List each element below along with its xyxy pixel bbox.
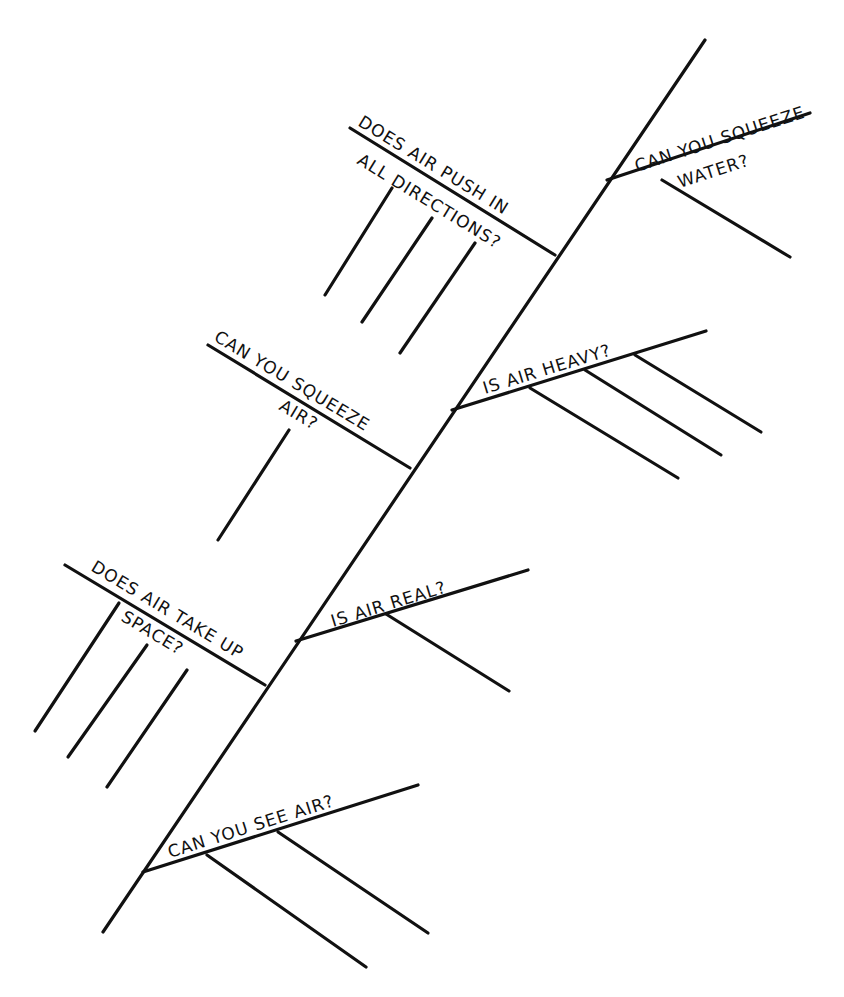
branch-see-air: CAN YOU SEE AIR? xyxy=(143,785,428,967)
sub-line xyxy=(218,430,289,540)
branch-line xyxy=(208,345,410,468)
sub-line xyxy=(207,855,366,967)
branch-label: IS AIR HEAVY? xyxy=(480,340,613,398)
sub-line xyxy=(107,670,187,787)
sub-line xyxy=(325,188,392,295)
sub-line xyxy=(530,388,678,478)
branch-line xyxy=(350,128,555,255)
branch-line xyxy=(65,565,265,685)
sub-line xyxy=(386,614,509,691)
sub-line xyxy=(35,603,119,731)
branch-air-heavy: IS AIR HEAVY? xyxy=(452,331,761,478)
branch-label: IS AIR REAL? xyxy=(328,577,448,631)
branch-squeeze-water: CAN YOU SQUEEZE WATER? xyxy=(607,102,810,257)
branch-squeeze-air: CAN YOU SQUEEZE AIR? xyxy=(208,326,410,540)
branch-push-directions: DOES AIR PUSH IN ALL DIRECTIONS? xyxy=(325,111,555,353)
branch-take-up-space: DOES AIR TAKE UP SPACE? xyxy=(35,556,265,787)
sub-line xyxy=(400,243,475,353)
branch-line xyxy=(452,331,706,410)
fishbone-diagram: CAN YOU SQUEEZE WATER? DOES AIR PUSH IN … xyxy=(0,0,844,997)
sub-line xyxy=(585,370,721,455)
sub-line xyxy=(278,832,428,933)
branch-line xyxy=(143,785,418,872)
sub-line xyxy=(362,218,432,322)
sub-line xyxy=(635,355,761,432)
branch-air-real: IS AIR REAL? xyxy=(296,570,528,691)
